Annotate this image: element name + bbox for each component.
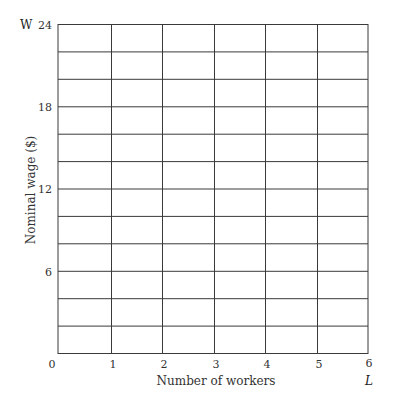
y-axis-variable: W [20, 18, 33, 32]
x-tick-0: 0 [49, 358, 56, 371]
x-tick-1: 1 [110, 358, 117, 371]
x-tick-4: 4 [264, 358, 271, 371]
y-tick-24: 24 [38, 19, 52, 32]
x-tick-5: 5 [316, 358, 323, 371]
y-axis-label: Nominal wage ($) [24, 136, 38, 245]
y-tick-12: 12 [38, 183, 52, 196]
grid [58, 25, 368, 354]
blank-labor-market-graph: W 24 18 12 6 Nominal wage ($) 0 1 2 3 4 … [0, 0, 394, 401]
x-axis-label: Number of workers [157, 374, 276, 388]
x-tick-2: 2 [161, 358, 168, 371]
x-tick-3: 3 [213, 358, 220, 371]
y-tick-6: 6 [45, 266, 52, 279]
x-axis-variable: L [364, 374, 373, 388]
x-tick-6: 6 [366, 357, 373, 370]
y-tick-18: 18 [38, 101, 52, 114]
